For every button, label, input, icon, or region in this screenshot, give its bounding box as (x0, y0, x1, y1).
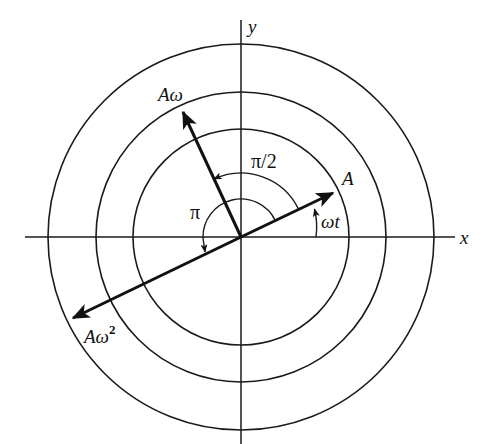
x-axis-label: x (459, 227, 469, 248)
omega-t-label: ωt (321, 211, 340, 232)
phasor-diagram: y x A Aω Aω2 ωt π/2 π (0, 0, 502, 444)
vector-A-label: A (340, 168, 354, 189)
A-omega-squared-exponent: 2 (109, 322, 116, 337)
vector-A-omega-squared-label: Aω2 (82, 322, 116, 347)
pi-half-label: π/2 (251, 150, 277, 172)
y-axis-label: y (246, 16, 257, 37)
omega-t-arc (315, 209, 317, 237)
vector-A-omega-label: Aω (156, 84, 183, 105)
pi-label: π (190, 201, 200, 223)
A-omega-squared-base: Aω (82, 326, 109, 347)
vector-A (241, 193, 333, 237)
